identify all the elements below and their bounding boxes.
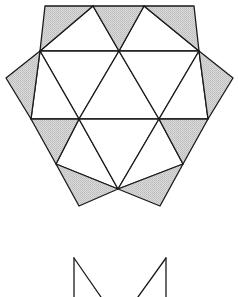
- partial-right-diagonal-line: [138, 258, 166, 297]
- partial-figure: [74, 258, 166, 297]
- partial-left-diagonal-line: [74, 258, 101, 297]
- geometric-net-diagram: [0, 0, 238, 297]
